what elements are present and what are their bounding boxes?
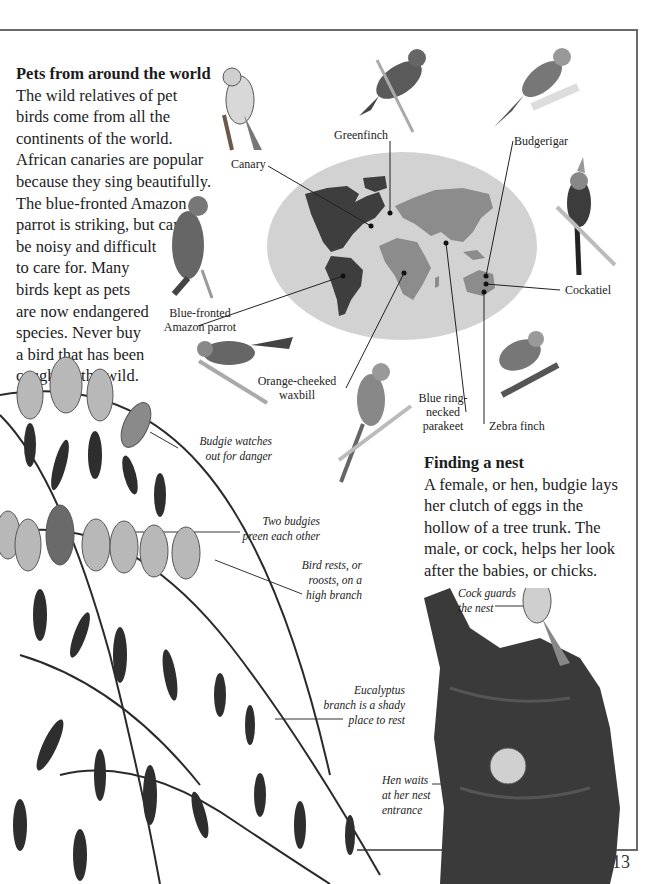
greenfinch-illustration-icon [355,40,440,140]
caption-line: roosts, on a [270,573,362,588]
canary-illustration-icon [210,55,270,155]
caption-line: Hen waits [382,773,431,788]
label-blue-ring-necked-parakeet: Blue ring- necked parakeet [416,391,470,433]
caption-line: Two budgies [220,514,320,529]
caption-hen-waits: Hen waits at her nest entrance [382,773,431,818]
zebra-finch-illustration-icon [492,325,562,405]
label-budgerigar: Budgerigar [514,134,568,148]
caption-line: Eucalyptus [300,683,405,698]
nest-section: Finding a nest A female, or hen, budgie … [424,452,654,582]
caption-line: high branch [270,588,362,603]
label-line: parakeet [416,419,470,433]
caption-line: branch is a shady [300,698,405,713]
label-line: necked [416,405,470,419]
caption-cock-guards-nest: Cock guards the nest [458,586,516,616]
nest-line: after the babies, or chicks. [424,560,654,582]
nest-line: hollow of a tree trunk. The [424,517,654,539]
caption-line: entrance [382,803,431,818]
caption-line: preen each other [220,529,320,544]
label-canary: Canary [231,157,266,171]
caption-line: Bird rests, or [270,558,362,573]
caption-line: out for danger [150,449,272,464]
nest-heading: Finding a nest [424,452,654,474]
caption-line: at her nest [382,788,431,803]
nest-line: male, or cock, helps her look [424,538,654,560]
label-cockatiel: Cockatiel [565,283,611,297]
caption-budgie-watches: Budgie watches out for danger [150,434,272,464]
caption-line: place to rest [300,713,405,728]
cockatiel-illustration-icon [555,155,620,280]
nest-line: her clutch of eggs in the [424,495,654,517]
budgerigar-illustration-icon [492,45,582,130]
caption-line: Cock guards [458,586,516,601]
tree-trunk-nest-photo-icon [420,588,630,884]
label-zebra-finch: Zebra finch [489,419,545,433]
amazon-parrot-illustration-icon [160,190,220,300]
caption-line: the nest [458,601,516,616]
label-blue-fronted-amazon: Blue-fronted Amazon parrot [150,306,250,334]
caption-two-budgies-preen: Two budgies preen each other [220,514,320,544]
caption-line: Budgie watches [150,434,272,449]
label-line: Amazon parrot [150,320,250,334]
label-line: Blue-fronted [150,306,250,320]
caption-bird-rests: Bird rests, or roosts, on a high branch [270,558,362,603]
nest-line: A female, or hen, budgie lays [424,474,654,496]
label-line: Blue ring- [416,391,470,405]
caption-eucalyptus-branch: Eucalyptus branch is a shady place to re… [300,683,405,728]
